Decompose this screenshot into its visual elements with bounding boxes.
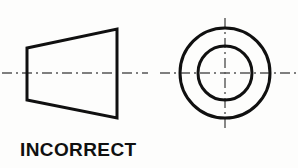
drawing-background	[0, 0, 298, 168]
engineering-drawing-canvas	[0, 0, 298, 168]
